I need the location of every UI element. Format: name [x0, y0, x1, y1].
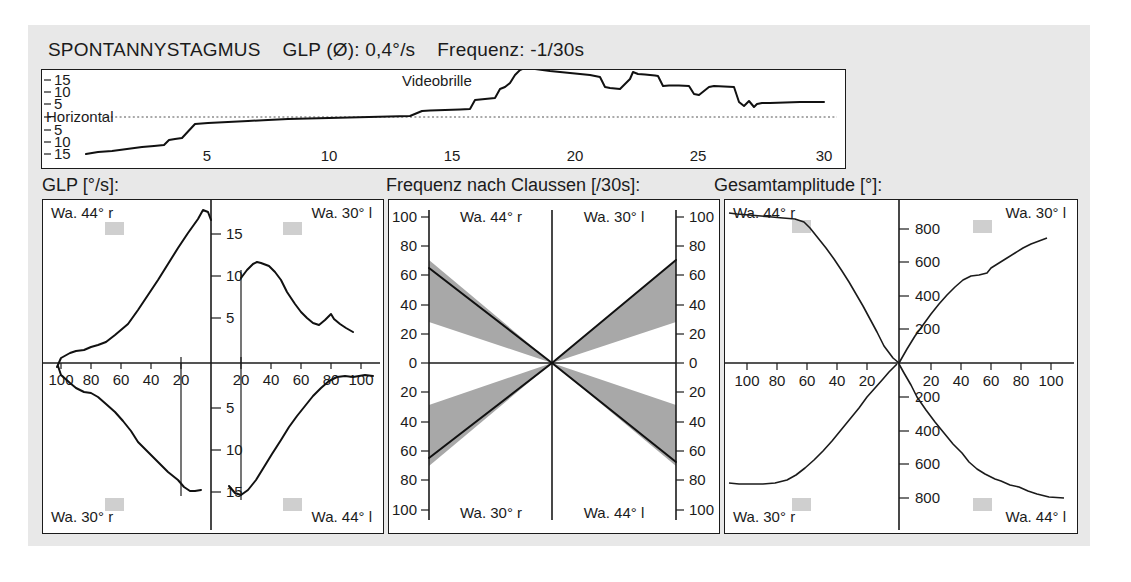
claussen-quadrant-label-bottom-left: Wa. 30° r — [460, 504, 522, 521]
claussen-ytick-r-2: 60 — [689, 266, 706, 283]
claussen-ytick-l-4: 20 — [400, 325, 417, 342]
amp-ytick-up-800: 800 — [915, 220, 940, 237]
claussen-ytick-r-3: 40 — [689, 296, 706, 313]
amp-ytick-dn-200: 200 — [915, 388, 940, 405]
videobrille-label: Videobrille — [402, 72, 472, 89]
glp-ytick-up-5: 5 — [226, 309, 234, 326]
amp-ytick-up-600: 600 — [915, 253, 940, 270]
spontannystagmus-strip-chart: 15 10 5 Horizontal 5 10 15 Videobrille 5… — [41, 69, 846, 169]
glp-value: GLP (Ø): 0,4°/s — [283, 39, 416, 61]
amp-xtick-r-100: 100 — [1038, 372, 1063, 389]
claussen-ytick-l-1: 80 — [400, 237, 417, 254]
glp-quadrant-label-bottom-left: Wa. 30° r — [51, 508, 113, 525]
claussen-ytick-l-8: 60 — [400, 442, 417, 459]
claussen-ytick-r-4: 20 — [689, 325, 706, 342]
glp-quadrant-label-bottom-right: Wa. 44° l — [312, 508, 372, 525]
top-xtick-25: 25 — [690, 147, 707, 164]
claussen-ytick-l-7: 40 — [400, 413, 417, 430]
amp-xtick-l-40: 40 — [829, 372, 846, 389]
glp-xtick-r-40: 40 — [263, 371, 280, 388]
amp-ytick-up-400: 400 — [915, 287, 940, 304]
glp-quadrant-label-top-left: Wa. 44° r — [51, 204, 113, 221]
claussen-ytick-l-6: 20 — [400, 383, 417, 400]
claussen-left-ticks — [421, 217, 429, 510]
glp-marker-top-right — [283, 222, 302, 235]
section-title-claussen: Frequenz nach Claussen [/30s]: — [386, 175, 640, 196]
claussen-ytick-r-5: 0 — [689, 354, 697, 371]
claussen-ytick-l-2: 60 — [400, 266, 417, 283]
glp-ytick-dn-10: 10 — [226, 441, 243, 458]
amplitude-left-xticks — [747, 363, 867, 370]
claussen-ytick-r-9: 80 — [689, 471, 706, 488]
glp-xtick-r-60: 60 — [293, 371, 310, 388]
claussen-ytick-l-3: 40 — [400, 296, 417, 313]
claussen-ytick-l-5: 0 — [409, 354, 417, 371]
glp-quadrant-label-top-right: Wa. 30° l — [312, 204, 372, 221]
amplitude-yticks-upper — [899, 229, 909, 329]
claussen-ytick-l-9: 80 — [400, 471, 417, 488]
top-xtick-15: 15 — [444, 147, 461, 164]
amp-xtick-r-60: 60 — [983, 372, 1000, 389]
page-root: SPONTANNYSTAGMUS GLP (Ø): 0,4°/s Frequen… — [0, 0, 1131, 582]
claussen-quadrant-label-top-left: Wa. 44° r — [460, 208, 522, 225]
claussen-ytick-r-6: 20 — [689, 383, 706, 400]
glp-trace-upper-right — [241, 262, 353, 332]
claussen-quadrant-label-bottom-right: Wa. 44° l — [584, 504, 644, 521]
top-xtick-20: 20 — [567, 147, 584, 164]
section-title-amplitude: Gesamtamplitude [°]: — [714, 175, 882, 196]
glp-ytick-dn-5: 5 — [226, 399, 234, 416]
claussen-panel: 100 80 60 40 20 0 20 40 60 80 100 — [388, 199, 720, 534]
glp-marker-bottom-left — [105, 498, 124, 511]
amplitude-panel: 100 80 60 40 20 20 40 60 80 100 — [724, 199, 1078, 534]
claussen-ytick-l-0: 100 — [392, 208, 417, 225]
amp-quadrant-label-bottom-left: Wa. 30° r — [733, 508, 795, 525]
top-xtick-10: 10 — [321, 147, 338, 164]
amp-ytick-up-200: 200 — [915, 320, 940, 337]
amp-xtick-l-80: 80 — [769, 372, 786, 389]
glp-marker-bottom-right — [283, 498, 302, 511]
claussen-right-ticks — [676, 217, 684, 510]
amp-xtick-l-60: 60 — [799, 372, 816, 389]
claussen-ytick-r-7: 40 — [689, 413, 706, 430]
top-xtick-30: 30 — [816, 147, 833, 164]
top-xtick-5: 5 — [203, 147, 211, 164]
amp-ytick-dn-800: 800 — [915, 489, 940, 506]
amp-trace-upper-left — [729, 213, 899, 363]
glp-xtick-l-40: 40 — [143, 371, 160, 388]
glp-yticks-lower — [211, 408, 221, 492]
amp-marker-bottom-right — [973, 498, 992, 511]
amp-xtick-l-100: 100 — [734, 372, 759, 389]
glp-xtick-l-60: 60 — [113, 371, 130, 388]
glp-trace-lower-right — [229, 375, 373, 495]
claussen-ytick-l-10: 100 — [392, 501, 417, 518]
page-title: SPONTANNYSTAGMUS — [48, 39, 261, 61]
top-ytick-15-down: 15 — [54, 145, 71, 162]
amp-xtick-l-20: 20 — [859, 372, 876, 389]
frequenz-value: Frequenz: -1/30s — [437, 39, 584, 61]
claussen-ytick-r-8: 60 — [689, 442, 706, 459]
amp-xtick-r-40: 40 — [953, 372, 970, 389]
claussen-ytick-r-10: 100 — [689, 501, 714, 518]
amplitude-yticks-lower — [899, 397, 909, 498]
amplitude-right-xticks — [931, 363, 1051, 370]
amp-marker-top-right — [973, 220, 992, 233]
glp-ytick-up-10: 10 — [226, 267, 243, 284]
glp-xtick-l-80: 80 — [83, 371, 100, 388]
amp-quadrant-label-bottom-right: Wa. 44° l — [1006, 508, 1066, 525]
report-card: SPONTANNYSTAGMUS GLP (Ø): 0,4°/s Frequen… — [28, 25, 1090, 546]
amp-quadrant-label-top-right: Wa. 30° l — [1006, 204, 1066, 221]
amp-xtick-r-20: 20 — [923, 372, 940, 389]
glp-xtick-r-100: 100 — [348, 371, 373, 388]
amp-ytick-dn-600: 600 — [915, 455, 940, 472]
glp-panel: 100 80 60 40 20 20 40 60 80 100 — [42, 199, 384, 534]
glp-yticks-upper — [211, 234, 221, 318]
amp-xtick-r-80: 80 — [1013, 372, 1030, 389]
claussen-ytick-r-0: 100 — [689, 208, 714, 225]
glp-trace-upper-left — [57, 210, 211, 367]
section-title-glp: GLP [°/s]: — [42, 175, 119, 196]
claussen-quadrant-label-top-right: Wa. 30° l — [584, 208, 644, 225]
amp-marker-bottom-left — [792, 498, 811, 511]
report-header: SPONTANNYSTAGMUS GLP (Ø): 0,4°/s Frequen… — [48, 37, 584, 63]
claussen-ytick-r-1: 80 — [689, 237, 706, 254]
glp-ytick-up-15: 15 — [226, 225, 243, 242]
